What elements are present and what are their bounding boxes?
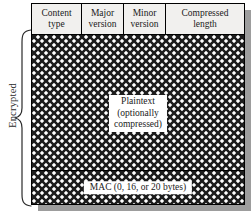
ssl-record-format-figure: Encrypted Content type Major version Min…	[0, 0, 251, 220]
mac-block: MAC (0, 16, or 20 bytes)	[32, 171, 244, 204]
plaintext-label-line3: compressed)	[114, 119, 162, 131]
header-field-major-version-line1: Major	[91, 8, 114, 20]
header-field-major-version: Major version	[82, 4, 124, 34]
header-field-compressed-length-line2: length	[193, 19, 217, 31]
header-field-compressed-length: Compressed length	[166, 4, 244, 34]
figure-drop-shadow-right	[245, 10, 251, 211]
record-header-row: Content type Major version Minor version…	[32, 4, 244, 35]
record-box: Content type Major version Minor version…	[31, 3, 245, 205]
header-field-minor-version: Minor version	[124, 4, 166, 34]
header-field-content-type-line1: Content	[41, 8, 71, 20]
header-field-minor-version-line1: Minor	[133, 8, 157, 20]
encrypted-body-area: Plaintext (optionally compressed) MAC (0…	[32, 35, 244, 204]
figure-drop-shadow-bottom	[38, 205, 251, 211]
plaintext-label: Plaintext (optionally compressed)	[109, 95, 167, 132]
header-field-content-type-line2: type	[48, 19, 64, 31]
encrypted-label: Encrypted	[7, 70, 18, 142]
mac-label: MAC (0, 16, or 20 bytes)	[84, 181, 192, 195]
header-field-minor-version-line2: version	[131, 19, 159, 31]
header-field-content-type: Content type	[32, 4, 82, 34]
plaintext-block: Plaintext (optionally compressed)	[32, 35, 244, 171]
plaintext-label-line1: Plaintext	[114, 96, 162, 108]
header-field-compressed-length-line1: Compressed	[182, 8, 229, 20]
header-field-major-version-line2: version	[89, 19, 117, 31]
plaintext-label-line2: (optionally	[114, 108, 162, 120]
encrypted-bracket-group: Encrypted	[0, 28, 32, 208]
